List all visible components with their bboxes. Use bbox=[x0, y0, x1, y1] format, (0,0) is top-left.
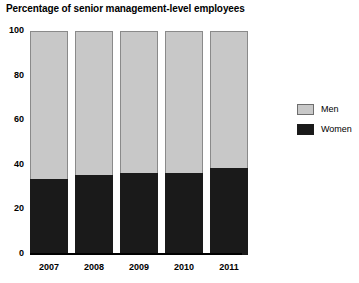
legend-label: Women bbox=[321, 123, 352, 135]
bar-segment-men bbox=[165, 31, 203, 254]
y-tick-label: 0 bbox=[19, 249, 24, 258]
y-tick-label: 100 bbox=[9, 26, 24, 35]
bar-segment-women bbox=[210, 168, 248, 255]
legend-label: Men bbox=[321, 103, 339, 115]
bar-group bbox=[75, 31, 113, 254]
bar-group bbox=[210, 31, 248, 254]
stacked-bar-chart: Percentage of senior management-level em… bbox=[0, 0, 359, 283]
legend-swatch-men bbox=[297, 104, 314, 115]
bar-segment-men bbox=[210, 31, 248, 254]
plot-area bbox=[30, 31, 240, 254]
y-tick-label: 20 bbox=[14, 204, 24, 213]
y-tick-label: 80 bbox=[14, 71, 24, 80]
bar-segment-men bbox=[30, 31, 68, 254]
bar-group bbox=[165, 31, 203, 254]
bar-segment-women bbox=[30, 179, 68, 255]
y-axis: 020406080100 bbox=[0, 0, 30, 283]
x-tick-label: 2011 bbox=[207, 262, 251, 272]
bar-segment-women bbox=[165, 173, 203, 256]
x-tick-label: 2010 bbox=[162, 262, 206, 272]
bar-segment-women bbox=[75, 175, 113, 255]
x-axis-baseline bbox=[30, 253, 242, 255]
x-tick-label: 2008 bbox=[72, 262, 116, 272]
legend-swatch-women bbox=[297, 124, 314, 135]
y-tick-label: 40 bbox=[14, 160, 24, 169]
bar-segment-women bbox=[120, 173, 158, 256]
y-tick-label: 60 bbox=[14, 115, 24, 124]
x-tick-label: 2009 bbox=[117, 262, 161, 272]
bar-group bbox=[120, 31, 158, 254]
bar-segment-men bbox=[75, 31, 113, 254]
bar-segment-men bbox=[120, 31, 158, 254]
chart-title: Percentage of senior management-level em… bbox=[6, 2, 245, 15]
x-tick-label: 2007 bbox=[27, 262, 71, 272]
bar-group bbox=[30, 31, 68, 254]
